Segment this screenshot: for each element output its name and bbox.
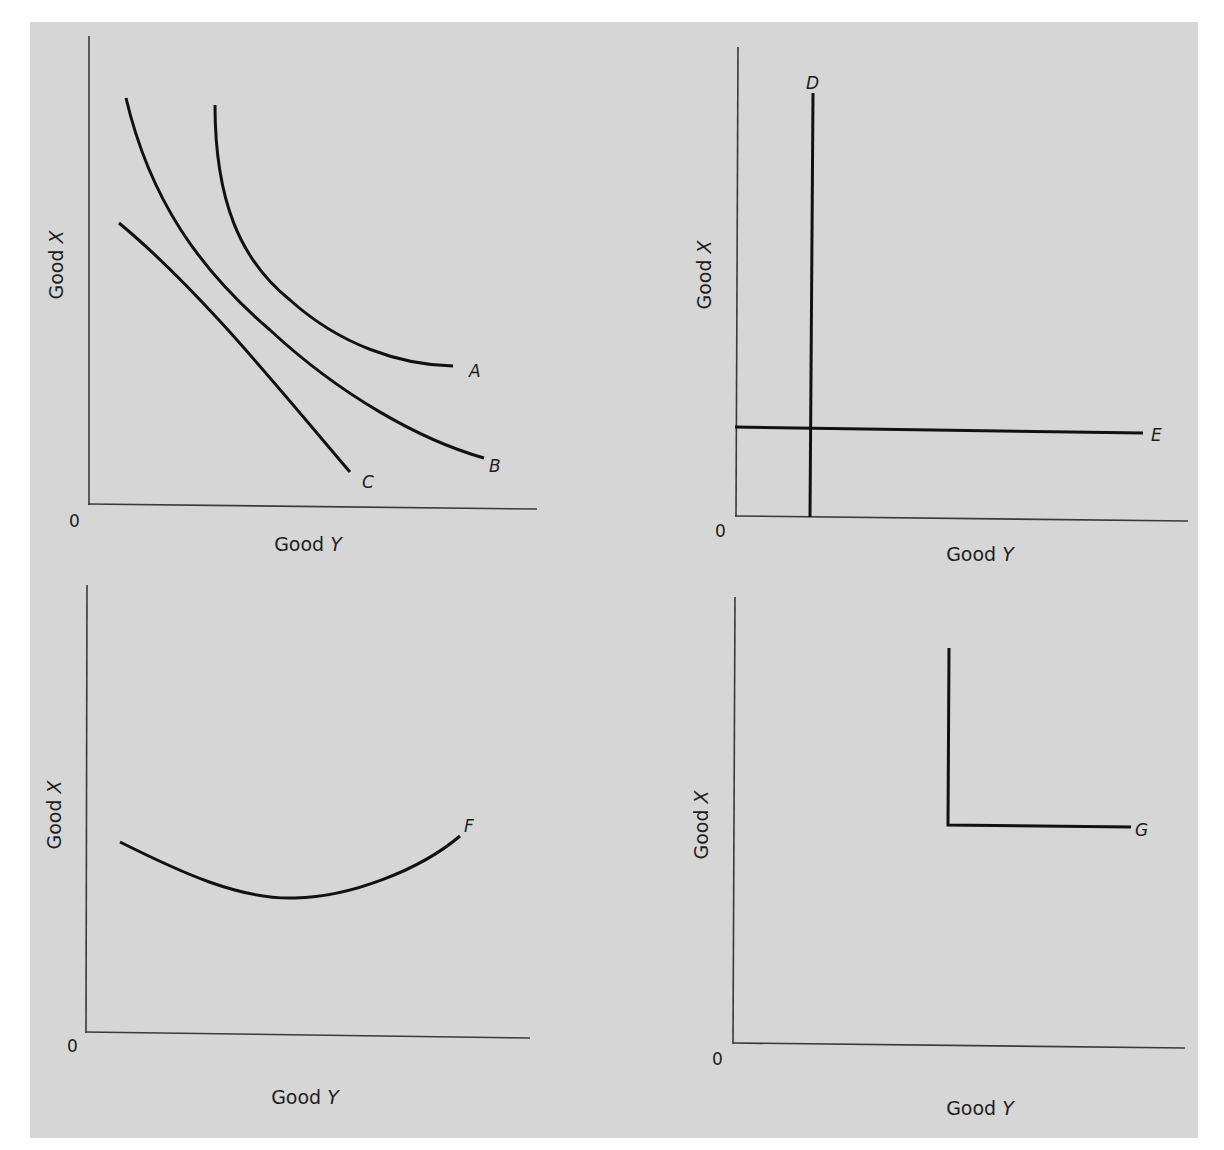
y-axis bbox=[736, 47, 738, 517]
curve-label-e: E bbox=[1151, 425, 1162, 445]
y-axis-label: Good X bbox=[45, 229, 67, 299]
y-axis-label: Good X bbox=[690, 789, 712, 859]
curve-label-b: B bbox=[489, 456, 501, 476]
curve-label-a: A bbox=[468, 361, 481, 381]
indifference-line-e bbox=[735, 427, 1143, 433]
panel-top-right: 0 Good X Good Y D E bbox=[693, 47, 1188, 565]
curve-label-g: G bbox=[1135, 820, 1148, 840]
origin-label: 0 bbox=[69, 511, 80, 531]
x-axis bbox=[85, 1032, 530, 1038]
origin-label: 0 bbox=[712, 1049, 723, 1069]
x-axis-label: Good Y bbox=[274, 533, 343, 555]
panel-bottom-right: 0 Good X Good Y G bbox=[690, 597, 1185, 1119]
x-axis bbox=[88, 504, 537, 509]
y-axis-label: Good X bbox=[43, 779, 65, 849]
x-axis-label: Good Y bbox=[946, 543, 1015, 565]
y-axis bbox=[86, 585, 87, 1033]
indifference-curve-f bbox=[120, 836, 460, 898]
indifference-curve-a bbox=[215, 105, 453, 366]
origin-label: 0 bbox=[67, 1036, 78, 1056]
y-axis-label: Good X bbox=[693, 239, 715, 309]
indifference-curve-g bbox=[948, 648, 1131, 827]
x-axis-label: Good Y bbox=[271, 1086, 340, 1108]
curve-label-d: D bbox=[806, 73, 819, 93]
curve-label-c: C bbox=[362, 472, 374, 492]
indifference-line-d bbox=[810, 93, 813, 517]
panel-top-left: 0 Good X Good Y A B C bbox=[45, 36, 537, 555]
x-axis bbox=[733, 1043, 1185, 1048]
origin-label: 0 bbox=[715, 521, 726, 541]
x-axis-label: Good Y bbox=[946, 1097, 1015, 1119]
x-axis bbox=[735, 516, 1188, 521]
y-axis bbox=[733, 597, 735, 1044]
panel-bottom-left: 0 Good X Good Y F bbox=[43, 585, 530, 1108]
curve-label-f: F bbox=[464, 816, 474, 836]
indifference-curve-c bbox=[119, 223, 350, 472]
indifference-curve-figure: 0 Good X Good Y A B C 0 Good X Good Y D … bbox=[0, 0, 1224, 1150]
